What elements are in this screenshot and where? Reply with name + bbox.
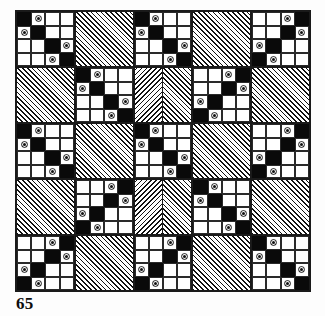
- quilt-patch-dotted: [193, 194, 207, 208]
- quilt-patch-light: [135, 151, 149, 165]
- quilt-patch-dark: [60, 53, 74, 67]
- quilt-patch-dark: [45, 250, 59, 264]
- quilt-patch-dark: [281, 26, 295, 40]
- quilt-block-chain: [192, 67, 251, 123]
- quilt-patch-light: [149, 165, 163, 179]
- quilt-patch-light: [104, 221, 118, 235]
- quilt-patch-dotted: [90, 221, 104, 235]
- quilt-block-chain: [16, 235, 75, 291]
- quilt-block-hatched: [251, 179, 310, 235]
- quilt-patch-dark: [149, 263, 163, 277]
- quilt-patch-dotted: [149, 124, 163, 138]
- quilt-patch-dark: [222, 82, 236, 96]
- quilt-patch-light: [222, 95, 236, 109]
- quilt-patch-dark: [45, 39, 59, 53]
- quilt-patch-dotted: [31, 12, 45, 26]
- quilt-patch-light: [295, 250, 309, 264]
- quilt-patch-light: [266, 124, 280, 138]
- quilt-half-hatch-left: [135, 68, 164, 122]
- quilt-patch-light: [295, 53, 309, 67]
- quilt-patch-dotted: [266, 165, 280, 179]
- quilt-patch-dark: [177, 53, 191, 67]
- quilt-patch-light: [193, 207, 207, 221]
- quilt-patch-light: [266, 263, 280, 277]
- quilt-patch-light: [222, 194, 236, 208]
- quilt-patch-dark: [76, 221, 90, 235]
- quilt-patch-dotted: [236, 207, 250, 221]
- quilt-patch-light: [90, 109, 104, 123]
- quilt-patch-dark: [31, 138, 45, 152]
- quilt-patch-light: [281, 165, 295, 179]
- quilt-patch-light: [163, 124, 177, 138]
- quilt-half-hatch-right: [163, 180, 191, 234]
- quilt-block-hatched: [75, 123, 134, 179]
- quilt-patch-light: [281, 39, 295, 53]
- quilt-patch-light: [177, 263, 191, 277]
- quilt-patch-light: [266, 277, 280, 291]
- quilt-patch-light: [104, 82, 118, 96]
- quilt-patch-light: [17, 165, 31, 179]
- quilt-patch-dotted: [295, 26, 309, 40]
- quilt-patch-dark: [193, 180, 207, 194]
- quilt-patch-light: [163, 263, 177, 277]
- quilt-patch-dotted: [295, 138, 309, 152]
- quilt-patch-light: [149, 53, 163, 67]
- quilt-patch-dotted: [236, 82, 250, 96]
- quilt-patch-light: [17, 236, 31, 250]
- quilt-patch-dotted: [222, 68, 236, 82]
- quilt-patch-light: [193, 221, 207, 235]
- quilt-patch-dotted: [31, 277, 45, 291]
- quilt-patch-dark: [177, 236, 191, 250]
- quilt-patch-light: [118, 207, 132, 221]
- quilt-patch-dotted: [45, 165, 59, 179]
- quilt-patch-light: [252, 124, 266, 138]
- quilt-patch-light: [135, 53, 149, 67]
- quilt-patch-dark: [135, 12, 149, 26]
- quilt-patch-light: [149, 250, 163, 264]
- quilt-patch-light: [222, 180, 236, 194]
- quilt-patch-dark: [208, 194, 222, 208]
- quilt-patch-light: [76, 180, 90, 194]
- quilt-block-hatched-mirrored: [134, 179, 193, 235]
- quilt-patch-light: [295, 165, 309, 179]
- quilt-patch-light: [17, 250, 31, 264]
- quilt-block-chain: [75, 67, 134, 123]
- quilt-patch-dotted: [222, 221, 236, 235]
- quilt-patch-light: [60, 26, 74, 40]
- figure-caption: 65: [16, 294, 34, 313]
- quilt-patch-dotted: [45, 53, 59, 67]
- quilt-patch-dark: [266, 151, 280, 165]
- quilt-patch-light: [118, 221, 132, 235]
- quilt-patch-light: [31, 53, 45, 67]
- quilt-patch-dotted: [76, 82, 90, 96]
- quilt-patch-dotted: [104, 180, 118, 194]
- quilt-block-chain: [251, 123, 310, 179]
- quilt-patch-dotted: [266, 53, 280, 67]
- quilt-patch-dark: [252, 165, 266, 179]
- quilt-patch-dotted: [252, 39, 266, 53]
- quilt-patch-light: [76, 194, 90, 208]
- quilt-patch-light: [252, 277, 266, 291]
- quilt-block-hatched: [75, 11, 134, 67]
- quilt-patch-dark: [60, 236, 74, 250]
- quilt-block-chain: [16, 11, 75, 67]
- quilt-patch-dark: [295, 277, 309, 291]
- quilt-patch-dark: [281, 263, 295, 277]
- quilt-patch-light: [135, 236, 149, 250]
- quilt-patch-light: [118, 82, 132, 96]
- quilt-patch-dark: [104, 194, 118, 208]
- quilt-patch-light: [31, 165, 45, 179]
- quilt-patch-light: [295, 236, 309, 250]
- quilt-block-hatched: [75, 235, 134, 291]
- quilt-patch-light: [60, 138, 74, 152]
- quilt-half-hatch-left: [135, 180, 164, 234]
- quilt-patch-dark: [45, 151, 59, 165]
- quilt-patch-dotted: [17, 26, 31, 40]
- quilt-block-hatched: [192, 235, 251, 291]
- quilt-patch-light: [208, 82, 222, 96]
- quilt-patch-light: [76, 109, 90, 123]
- quilt-patch-dotted: [163, 236, 177, 250]
- quilt-patch-light: [45, 138, 59, 152]
- quilt-patch-light: [31, 250, 45, 264]
- quilt-patch-light: [104, 207, 118, 221]
